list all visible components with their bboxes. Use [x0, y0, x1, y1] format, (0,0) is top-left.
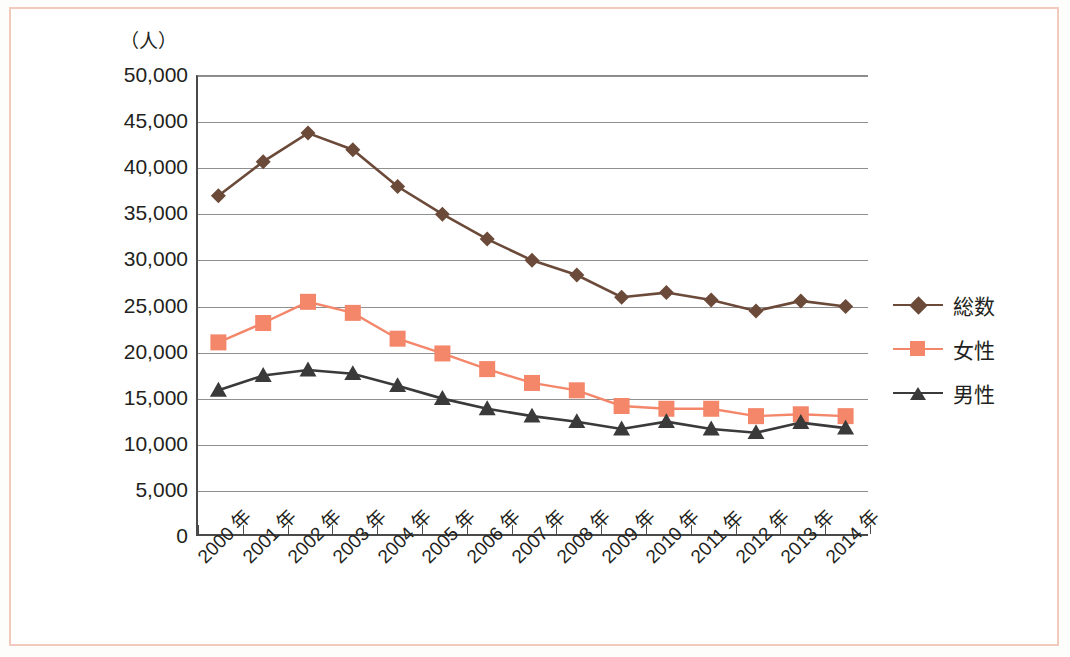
legend-label: 女性 — [943, 334, 995, 364]
data-point-marker — [569, 268, 584, 283]
data-point-marker — [210, 334, 226, 350]
y-axis-tick-label: 20,000 — [124, 340, 188, 364]
data-point-marker — [569, 382, 585, 398]
data-point-marker — [300, 362, 317, 377]
series-総数 — [211, 126, 853, 319]
y-axis-tick-label: 0 — [176, 524, 188, 548]
data-point-marker — [749, 304, 764, 319]
chart-page: （人） 05,00010,00015,00020,00025,00030,000… — [0, 0, 1070, 657]
x-axis-tick-labels: 2000 年2001 年2002 年2003 年2004 年2005 年2006… — [196, 541, 876, 651]
chart-legend: 総数女性男性 — [893, 283, 1043, 415]
legend-item-総数[interactable]: 総数 — [893, 283, 1043, 327]
data-point-marker — [479, 361, 495, 377]
y-axis-tick-labels: 05,00010,00015,00020,00025,00030,00035,0… — [96, 0, 188, 657]
y-axis-tick-label: 25,000 — [124, 294, 188, 318]
data-point-marker — [434, 345, 450, 361]
legend-symbol-triangle-icon — [910, 387, 926, 400]
data-point-marker — [390, 331, 406, 347]
data-point-marker — [345, 305, 361, 321]
data-point-marker — [703, 401, 719, 417]
data-point-marker — [614, 290, 629, 305]
series-layer — [196, 75, 868, 538]
data-point-marker — [838, 299, 853, 314]
legend-symbol-diamond-icon — [909, 296, 927, 314]
legend-label: 総数 — [943, 290, 995, 320]
legend-symbol-square-icon — [910, 341, 925, 356]
data-point-marker — [300, 294, 316, 310]
y-axis-tick-label: 10,000 — [124, 432, 188, 456]
series-line — [218, 133, 845, 311]
series-男性 — [210, 362, 854, 440]
data-point-marker — [480, 232, 495, 247]
legend-marker — [893, 340, 943, 358]
series-line — [218, 302, 845, 416]
data-point-marker — [793, 293, 808, 308]
line-chart: （人） 05,00010,00015,00020,00025,00030,000… — [0, 0, 1070, 657]
data-point-marker — [524, 375, 540, 391]
y-axis-tick-label: 15,000 — [124, 386, 188, 410]
legend-item-女性[interactable]: 女性 — [893, 327, 1043, 371]
data-point-marker — [748, 408, 764, 424]
legend-marker — [893, 296, 943, 314]
legend-marker — [893, 384, 943, 402]
y-axis-tick-label: 35,000 — [124, 201, 188, 225]
data-point-marker — [255, 315, 271, 331]
data-point-marker — [301, 126, 316, 141]
legend-label: 男性 — [943, 378, 995, 408]
legend-item-男性[interactable]: 男性 — [893, 371, 1043, 415]
y-axis-tick-label: 30,000 — [124, 247, 188, 271]
y-axis-tick-label: 5,000 — [135, 478, 188, 502]
data-point-marker — [659, 285, 674, 300]
data-point-marker — [614, 398, 630, 414]
data-point-marker — [435, 207, 450, 222]
y-axis-tick-label: 50,000 — [124, 63, 188, 87]
data-point-marker — [525, 253, 540, 268]
y-axis-tick-label: 45,000 — [124, 109, 188, 133]
y-axis-tick-label: 40,000 — [124, 155, 188, 179]
data-point-marker — [704, 292, 719, 307]
